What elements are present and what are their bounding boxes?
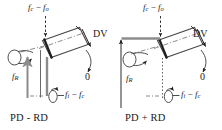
rotation-arrow-left <box>8 50 33 65</box>
left-zero-label: 0 <box>85 71 90 82</box>
bottom-rotation-arrow-left <box>49 89 64 103</box>
joint-bar-right <box>159 39 167 59</box>
left-dv-label: DV <box>93 28 107 39</box>
right-bottom-force-label: fi − fc <box>181 89 200 99</box>
rotation-arrow-right <box>123 52 148 67</box>
left-bottom-force-label: fi − fc <box>65 89 84 99</box>
joint-bar-left <box>44 39 52 59</box>
diagram-vector-layer <box>0 0 222 130</box>
right-panel-caption: PD + RD <box>125 112 166 123</box>
right-top-force-label: fc − fo <box>143 2 164 12</box>
bottom-rotation-arrow-right <box>164 89 179 103</box>
right-dv-label: DV <box>193 28 207 39</box>
left-top-force-label: fc − fo <box>28 2 49 12</box>
left-panel-caption: PD - RD <box>10 112 48 123</box>
figure-canvas: fc − fo DV 0 fR fi − fc PD - RD fc − fo … <box>0 0 222 130</box>
left-fr-label: fR <box>12 71 19 81</box>
right-fr-label: fR <box>126 73 133 83</box>
zero-curved-arrow-right <box>201 50 206 72</box>
dv-arrow-left <box>82 29 91 47</box>
zero-curved-arrow-left <box>86 50 91 72</box>
right-zero-label: 0 <box>200 71 205 82</box>
